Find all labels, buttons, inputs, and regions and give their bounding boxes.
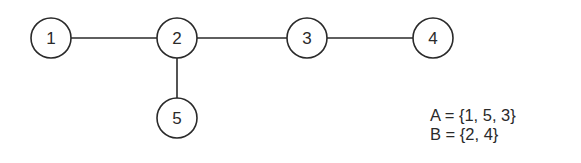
graph-nodes: 12345 (31, 18, 453, 138)
node-3: 3 (287, 18, 327, 58)
graph-edges (51, 38, 433, 118)
node-label: 3 (302, 29, 311, 48)
set-a-definition: A = {1, 5, 3} (430, 106, 516, 125)
node-label: 1 (46, 29, 55, 48)
node-2: 2 (157, 18, 197, 58)
node-5: 5 (157, 98, 197, 138)
set-definitions: A = {1, 5, 3} B = {2, 4} (430, 106, 516, 144)
node-label: 4 (428, 29, 437, 48)
node-1: 1 (31, 18, 71, 58)
node-label: 2 (172, 29, 181, 48)
node-4: 4 (413, 18, 453, 58)
node-label: 5 (172, 109, 181, 128)
set-b-definition: B = {2, 4} (430, 125, 516, 144)
